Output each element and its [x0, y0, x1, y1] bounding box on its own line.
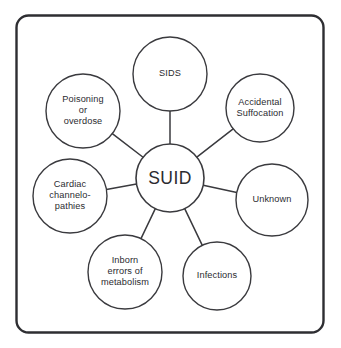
node-circle-cardiac-channelopathies[interactable] — [33, 159, 107, 233]
node-circle-inborn-errors-of-metabolism[interactable] — [88, 235, 162, 309]
node-circles-group — [33, 37, 308, 310]
suid-diagram: SIDSAccidental SuffocationUnknownInfecti… — [0, 0, 341, 348]
node-circle-accidental-suffocation[interactable] — [226, 74, 294, 142]
spoke-suid-to-infections — [185, 209, 203, 246]
diagram-canvas — [0, 0, 341, 348]
node-circle-sids[interactable] — [133, 37, 207, 111]
hub-circle-suid[interactable] — [136, 144, 204, 212]
node-circle-infections[interactable] — [183, 242, 251, 310]
node-circle-unknown[interactable] — [236, 164, 308, 236]
node-circle-poisoning-or-overdose[interactable] — [46, 74, 120, 148]
spoke-suid-to-accidental-suffocation — [197, 129, 233, 157]
spoke-suid-to-inborn-errors-of-metabolism — [141, 209, 155, 239]
spoke-suid-to-poisoning-or-overdose — [112, 134, 143, 158]
spoke-suid-to-unknown — [203, 185, 237, 192]
spoke-suid-to-cardiac-channelopathies — [106, 184, 136, 189]
